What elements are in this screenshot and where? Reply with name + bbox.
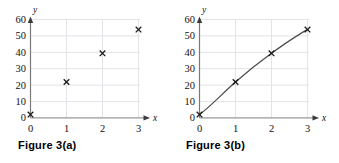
plot-area-3b: y x 60 50 40 30 20 10 0 0 1 2 3 (169, 0, 338, 136)
gridlines-horizontal-3a (31, 20, 141, 102)
x-tick-1-3b: 1 (233, 123, 238, 134)
y-tick-60-3b: 60 (185, 14, 196, 25)
x-tick-2-3a: 2 (100, 123, 105, 134)
x-axis-3a (31, 115, 151, 120)
y-tick-0-3b: 0 (190, 112, 195, 123)
figure-caption-3a: Figure 3(a) (18, 139, 76, 151)
plot-area-3a: y x 60 50 40 30 20 10 0 0 1 2 3 (0, 0, 169, 136)
x-tick-3-3a: 3 (136, 123, 141, 134)
figure-3a: y x 60 50 40 30 20 10 0 0 1 2 3 (0, 0, 169, 163)
gridlines-horizontal-3b (200, 20, 310, 102)
x-tick-2-3b: 2 (269, 123, 274, 134)
y-tick-30-3a: 30 (16, 63, 27, 74)
data-points-3b (197, 27, 311, 118)
y-tick-50-3b: 50 (185, 30, 196, 41)
y-tick-20-3b: 20 (185, 80, 196, 91)
data-points-3a (28, 27, 142, 118)
line-chart-3b: y x 60 50 40 30 20 10 0 0 1 2 3 (169, 0, 339, 136)
y-tick-10-3a: 10 (16, 96, 27, 107)
x-axis-3b (200, 115, 320, 120)
x-tick-3-3b: 3 (305, 123, 310, 134)
y-tick-40-3b: 40 (185, 47, 196, 58)
y-axis-3a (28, 17, 33, 118)
figure-caption-3b: Figure 3(b) (186, 139, 245, 151)
y-tick-10-3b: 10 (185, 96, 196, 107)
y-tick-20-3a: 20 (16, 80, 27, 91)
figure-pair: y x 60 50 40 30 20 10 0 0 1 2 3 (0, 0, 339, 163)
scatter-chart-3a: y x 60 50 40 30 20 10 0 0 1 2 3 (0, 0, 169, 136)
x-tick-1-3a: 1 (64, 123, 69, 134)
y-tick-50-3a: 50 (16, 30, 27, 41)
x-tick-0-3a: 0 (28, 123, 33, 134)
x-tick-0-3b: 0 (197, 123, 202, 134)
x-axis-label-3b: x (321, 113, 327, 123)
y-tick-0-3a: 0 (21, 112, 26, 123)
y-tick-60-3a: 60 (16, 14, 27, 25)
x-axis-label-3a: x (152, 113, 158, 123)
y-axis-label-3b: y (201, 5, 207, 15)
y-tick-30-3b: 30 (185, 63, 196, 74)
y-axis-3b (197, 17, 202, 118)
figure-3b: y x 60 50 40 30 20 10 0 0 1 2 3 (169, 0, 339, 163)
y-axis-label-3a: y (32, 5, 38, 15)
y-tick-40-3a: 40 (16, 47, 27, 58)
